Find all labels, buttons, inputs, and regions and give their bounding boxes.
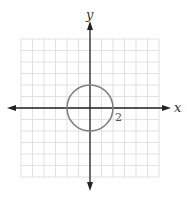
tick-label-2: 2: [115, 111, 122, 124]
x-axis-label: x: [174, 100, 182, 115]
x-axis: [7, 105, 171, 111]
coordinate-graph: x y 2: [0, 0, 187, 199]
y-axis-label: y: [85, 7, 94, 22]
x-axis-right-arrow-icon: [162, 105, 171, 111]
y-axis-up-arrow-icon: [87, 21, 93, 30]
y-axis-down-arrow-icon: [87, 182, 93, 191]
x-axis-left-arrow-icon: [7, 105, 16, 111]
